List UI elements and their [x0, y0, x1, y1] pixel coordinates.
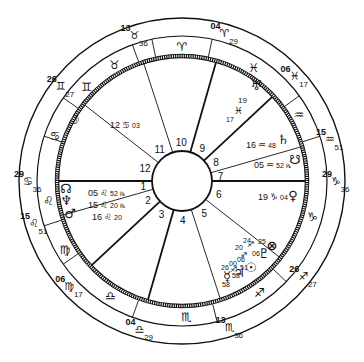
house-number-10: 10 [176, 137, 188, 148]
house-number-2: 2 [145, 195, 151, 206]
uranus-sign-icon: ♓ [234, 105, 243, 116]
planet-saturn: ♄ [277, 132, 289, 147]
sagittarius-icon: ♐ [247, 240, 254, 249]
cusp-label-3: 06♍17 [55, 274, 83, 299]
gemini-sign-icon: ♊ [81, 80, 92, 94]
center-hub [152, 151, 212, 211]
planet-minute: 52 [276, 162, 284, 169]
sign-boundary-8 [44, 220, 61, 226]
planet-sign-icon: ♌ [104, 212, 112, 222]
aries-sign-icon: ♈ [177, 40, 188, 54]
libra-icon: ♎ [135, 323, 145, 336]
cusp-label-12: 26♊27 [47, 74, 75, 99]
planet-position-mars: 16♌20 [92, 212, 122, 222]
sagittarius-icon: ♐ [298, 270, 308, 283]
gemini-icon: ♊ [56, 80, 66, 93]
sagittarius-icon: ♐ [230, 265, 237, 274]
taurus-icon: ♉ [129, 29, 139, 42]
planet-position-neptune: 15♌20℞ [88, 200, 125, 210]
aquarius-icon: ♒ [325, 133, 335, 146]
cusp-minute: 29 [229, 37, 238, 46]
house-number-6: 6 [216, 189, 222, 200]
uranus-icon: ♅ [250, 78, 262, 93]
planet-minute: 48 [268, 142, 276, 149]
planet-sign-icon: ♋ [122, 120, 130, 130]
cusp-minute: 29 [144, 333, 153, 342]
taurus-sign-icon: ♉ [109, 58, 120, 72]
house-number-5: 5 [202, 208, 208, 219]
cusp-minute: 17 [299, 80, 308, 89]
planet-position-north-node: 05♌52℞ [88, 188, 125, 198]
sagittarius-sign-icon: ♐ [254, 286, 265, 300]
house-number-11: 11 [154, 144, 165, 155]
moon-icon: ☽ [68, 112, 80, 127]
cusp-line-3 [92, 201, 160, 264]
saturn-icon: ♄ [277, 132, 289, 147]
house-number-3: 3 [159, 209, 165, 220]
planet-degree: 12 [110, 120, 120, 130]
planet-sign-icon: ♒ [258, 140, 266, 150]
stellium-label: 26 [221, 264, 229, 271]
cancer-icon: ♋ [23, 175, 33, 188]
planet-minute: 20 [110, 202, 118, 209]
sign-boundary-2 [285, 96, 300, 107]
planet-position-moon: 12♋03 [110, 120, 140, 130]
sign-boundary-4 [273, 269, 286, 282]
planet-degree: 15 [88, 200, 98, 210]
pisces-sign-icon: ♓ [248, 61, 259, 75]
planet-position-south-node: 05♒52℞ [254, 160, 291, 170]
cusp-minute: 27 [308, 280, 317, 289]
sign-boundary-3 [303, 136, 320, 142]
capricorn-icon: ♑ [331, 175, 341, 188]
cusp-line-11 [144, 64, 173, 152]
cancer-sign-icon: ♋ [50, 129, 61, 143]
sign-boundary-1 [208, 39, 212, 57]
cusp-minute: 17 [74, 290, 83, 299]
cusp-minute: 36 [341, 185, 350, 194]
planet-moon: ☽ [68, 112, 80, 127]
mars-icon: ♂ [64, 206, 76, 221]
planet-sign-icon: ♌ [100, 188, 108, 198]
planet-south-node: ☋ [289, 152, 301, 167]
natal-chart-wheel: 29♋3615♌5106♍1704♎2913♏3626♐2729♑3615♒51… [0, 0, 364, 362]
leo-icon: ♌ [29, 217, 39, 230]
sign-boundary-6 [132, 300, 138, 317]
cusp-line-10 [190, 63, 216, 152]
libra-sign-icon: ♎ [105, 289, 116, 303]
cusp-line-12 [85, 105, 158, 162]
uranus-degree: 19 [238, 96, 247, 105]
house-number-7: 7 [218, 171, 224, 182]
stellium-label: 51 [240, 264, 248, 271]
virgo-sign-icon: ♍ [60, 243, 71, 257]
retrograde-icon: ℞ [120, 191, 125, 197]
planet-degree: 19 [258, 192, 268, 202]
pluto-icon: ♇ [258, 246, 270, 261]
planet-pluto: ♇ [258, 246, 270, 261]
cusp-minute: 36 [139, 39, 148, 48]
cusp-minute: 36 [33, 185, 42, 194]
stellium-label: 20 [235, 244, 243, 251]
cusp-minute: 51 [335, 143, 344, 152]
planet-minute: 20 [114, 214, 122, 221]
venus-icon: ♀ [288, 188, 298, 203]
planet-degree: 16 [246, 140, 256, 150]
planet-minute: 52 [110, 190, 118, 197]
cusp-label-6: 26♐27 [289, 264, 317, 289]
planet-sign-icon: ♒ [266, 160, 274, 170]
pisces-icon: ♓ [290, 70, 300, 83]
scorpio-sign-icon: ♏ [181, 310, 192, 324]
planet-sign-icon: ♌ [100, 200, 108, 210]
uranus-minute: 17 [226, 116, 234, 123]
cusp-line-5 [191, 210, 220, 298]
stellium-label: 25 [258, 238, 266, 245]
stellium-label: 58 [222, 281, 230, 288]
stellium-label: 06 [252, 250, 260, 257]
cusp-minute: 51 [39, 227, 48, 236]
sign-boundary-11 [152, 39, 156, 57]
retrograde-icon: ℞ [286, 163, 291, 169]
planet-mars: ♂ [64, 206, 76, 221]
house-number-9: 9 [200, 143, 206, 154]
leo-sign-icon: ♌ [43, 194, 54, 208]
house-number-8: 8 [213, 157, 219, 168]
sign-boundary-0 [132, 45, 138, 62]
